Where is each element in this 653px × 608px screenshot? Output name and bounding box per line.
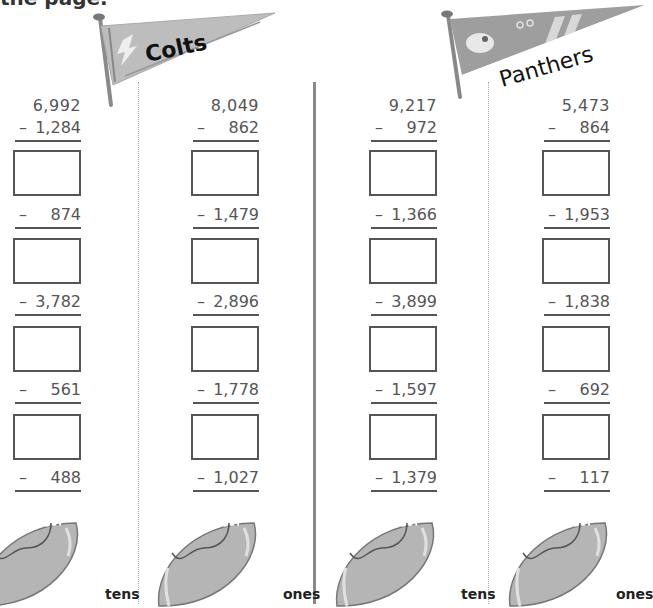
minus-sign: –	[197, 468, 205, 487]
underline	[193, 314, 259, 316]
answer-box[interactable]	[13, 414, 81, 460]
subtrahend: 1,284	[35, 118, 81, 137]
underline	[544, 490, 610, 492]
underline	[544, 402, 610, 404]
minus-sign: –	[548, 118, 556, 137]
subtrahend: 1,953	[564, 205, 610, 224]
underline	[371, 490, 437, 492]
underline	[193, 140, 259, 142]
column-divider	[488, 82, 489, 604]
answer-box[interactable]	[191, 414, 259, 460]
answer-box[interactable]	[369, 238, 437, 284]
minus-sign: –	[375, 292, 383, 311]
answer-box[interactable]	[369, 150, 437, 196]
minus-sign: –	[548, 292, 556, 311]
minus-sign: –	[19, 205, 27, 224]
answer-box[interactable]	[191, 238, 259, 284]
place-value-label: tens	[461, 586, 496, 602]
column-divider	[138, 82, 139, 604]
answer-box[interactable]	[13, 238, 81, 284]
underline	[193, 490, 259, 492]
football-icon	[0, 518, 86, 608]
subtrahend: 972	[406, 118, 437, 137]
underline	[15, 314, 81, 316]
minus-sign: –	[548, 468, 556, 487]
minus-sign: –	[375, 468, 383, 487]
subtrahend: 1,479	[213, 205, 259, 224]
underline	[193, 227, 259, 229]
answer-box[interactable]	[369, 326, 437, 372]
minus-sign: –	[19, 468, 27, 487]
underline	[15, 402, 81, 404]
problem-column: 8,049–862–1,479–2,896–1,778–1,027	[159, 0, 259, 604]
underline	[15, 227, 81, 229]
answer-box[interactable]	[542, 414, 610, 460]
underline	[371, 402, 437, 404]
start-number: 5,473	[562, 96, 610, 115]
team-divider	[313, 82, 316, 604]
minus-sign: –	[548, 380, 556, 399]
subtrahend: 488	[50, 468, 81, 487]
problem-column: 6,992–1,284–874–3,782–561–488	[0, 0, 81, 604]
underline	[544, 227, 610, 229]
answer-box[interactable]	[13, 150, 81, 196]
start-number: 9,217	[389, 96, 437, 115]
subtrahend: 1,366	[391, 205, 437, 224]
answer-box[interactable]	[13, 326, 81, 372]
minus-sign: –	[19, 380, 27, 399]
underline	[544, 314, 610, 316]
subtrahend: 3,899	[391, 292, 437, 311]
start-number: 6,992	[33, 96, 81, 115]
problem-column: 9,217–972–1,366–3,899–1,597–1,379	[337, 0, 437, 604]
subtrahend: 1,597	[391, 380, 437, 399]
underline	[15, 490, 81, 492]
problem-column: 5,473–864–1,953–1,838–692–117	[510, 0, 610, 604]
minus-sign: –	[19, 118, 27, 137]
answer-box[interactable]	[542, 326, 610, 372]
minus-sign: –	[197, 292, 205, 311]
underline	[371, 314, 437, 316]
underline	[371, 140, 437, 142]
answer-box[interactable]	[369, 414, 437, 460]
place-value-label: ones	[283, 586, 320, 602]
subtrahend: 3,782	[35, 292, 81, 311]
football-icon	[332, 518, 442, 608]
football-icon	[154, 518, 264, 608]
minus-sign: –	[19, 292, 27, 311]
minus-sign: –	[197, 118, 205, 137]
start-number: 8,049	[211, 96, 259, 115]
place-value-label: ones	[616, 586, 653, 602]
answer-box[interactable]	[191, 326, 259, 372]
minus-sign: –	[375, 380, 383, 399]
underline	[371, 227, 437, 229]
underline	[544, 140, 610, 142]
subtrahend: 1,379	[391, 468, 437, 487]
minus-sign: –	[197, 205, 205, 224]
answer-box[interactable]	[191, 150, 259, 196]
subtrahend: 1,027	[213, 468, 259, 487]
answer-box[interactable]	[542, 150, 610, 196]
minus-sign: –	[548, 205, 556, 224]
subtrahend: 874	[50, 205, 81, 224]
football-icon	[505, 518, 615, 608]
minus-sign: –	[375, 118, 383, 137]
minus-sign: –	[375, 205, 383, 224]
subtrahend: 1,778	[213, 380, 259, 399]
subtrahend: 862	[228, 118, 259, 137]
underline	[15, 140, 81, 142]
subtrahend: 2,896	[213, 292, 259, 311]
underline	[193, 402, 259, 404]
minus-sign: –	[197, 380, 205, 399]
subtrahend: 864	[579, 118, 610, 137]
place-value-label: tens	[105, 586, 140, 602]
subtrahend: 692	[579, 380, 610, 399]
answer-box[interactable]	[542, 238, 610, 284]
subtrahend: 117	[579, 468, 610, 487]
subtrahend: 1,838	[564, 292, 610, 311]
subtrahend: 561	[50, 380, 81, 399]
